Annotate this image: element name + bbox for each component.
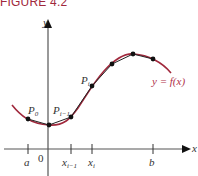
axes xyxy=(4,19,191,176)
y-axis-label: y xyxy=(42,16,48,28)
tick-label-b: b xyxy=(149,156,155,168)
curve-label: y = f(x) xyxy=(151,75,185,88)
origin-label: 0 xyxy=(38,152,44,164)
x-axis-label: x xyxy=(191,142,197,154)
arc-length-diagram: y x 0 a xi−1 xi b P0 Pi−1 Pi y = f(x) xyxy=(0,0,198,176)
point-label-pi: Pi xyxy=(80,74,90,88)
tick-label-xi-1: xi−1 xyxy=(61,156,77,170)
x-axis-arrow-icon xyxy=(182,145,191,153)
tick-label-xi: xi xyxy=(87,156,95,170)
point-label-pi-1: Pi−1 xyxy=(52,104,70,118)
point-label-p0: P0 xyxy=(27,104,39,118)
tick-label-a: a xyxy=(24,156,30,168)
